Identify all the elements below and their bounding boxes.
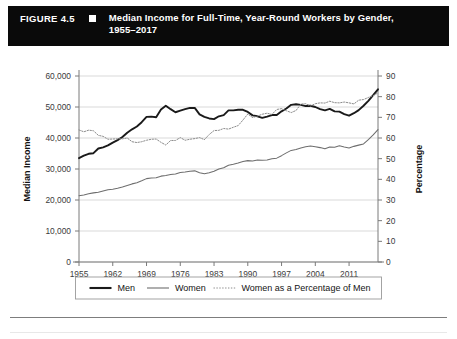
figure-header-row: FIGURE 4.5 Median Income for Full-Time, … <box>20 12 439 35</box>
y-tick-label: 0 <box>66 257 71 267</box>
y-tick-label: 20,000 <box>45 195 71 205</box>
chart-axis-lines <box>73 70 384 262</box>
y2-tick-label: 0 <box>386 257 391 267</box>
series-line-1 <box>79 89 378 158</box>
y2-tick-label: 80 <box>386 92 396 102</box>
y2-tick-label: 60 <box>386 133 396 143</box>
y2-tick-label: 30 <box>386 195 396 205</box>
legend-label: Women <box>175 283 206 293</box>
legend-label: Men <box>118 283 136 293</box>
y-tick-label: 60,000 <box>45 71 71 81</box>
y-tick-label: 10,000 <box>45 226 71 236</box>
y-tick-label: 50,000 <box>45 102 71 112</box>
legend-label: Women as a Percentage of Men <box>242 283 371 293</box>
y2-tick-label: 90 <box>386 71 396 81</box>
figure-title: Median Income for Full-Time, Year-Round … <box>109 12 394 35</box>
line-chart: 010,00020,00030,00040,00050,00060,000010… <box>8 52 449 304</box>
y2-tick-label: 40 <box>386 174 396 184</box>
figure-number: FIGURE 4.5 <box>20 12 75 24</box>
bottom-divider-rule <box>10 317 447 318</box>
series-line-3 <box>79 93 378 145</box>
chart-gridlines <box>79 76 378 262</box>
figure-title-line1: Median Income for Full-Time, Year-Round … <box>109 12 394 23</box>
faint-divider-rule <box>10 332 447 333</box>
chart-tick-marks <box>75 76 382 266</box>
chart-container: 010,00020,00030,00040,00050,00060,000010… <box>8 52 449 304</box>
y2-tick-label: 50 <box>386 154 396 164</box>
figure-header-bar: FIGURE 4.5 Median Income for Full-Time, … <box>8 6 449 46</box>
y-tick-label: 40,000 <box>45 133 71 143</box>
figure-title-line2: 1955–2017 <box>109 24 157 35</box>
chart-legend: MenWomenWomen as a Percentage of Men <box>76 277 382 299</box>
series-line-2 <box>79 130 378 196</box>
y-tick-label: 30,000 <box>45 164 71 174</box>
y-axis-title: Median Income <box>22 136 32 201</box>
chart-series-layer <box>79 89 378 195</box>
square-marker-icon <box>89 15 96 22</box>
y2-tick-label: 20 <box>386 216 396 226</box>
y2-axis-title: Percentage <box>414 145 424 194</box>
y2-tick-label: 10 <box>386 236 396 246</box>
y2-tick-label: 70 <box>386 112 396 122</box>
